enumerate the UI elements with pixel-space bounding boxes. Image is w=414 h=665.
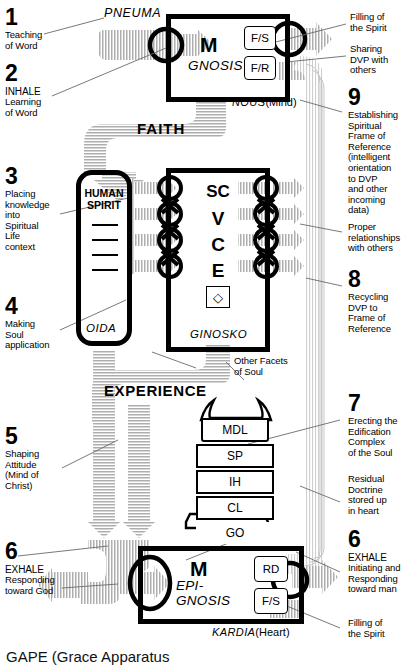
tag-rd-kardia[interactable]: RD [254, 556, 288, 582]
kardia-name-line2: GNOSIS [176, 593, 230, 608]
diagram-caption: GAPE (Grace Apparatus [6, 648, 169, 665]
tower-level-ih: IH [196, 470, 274, 494]
tower-level-go: GO [196, 522, 274, 544]
kardia-foot-label: KARDIA(Heart) [212, 626, 290, 638]
tag-fs-kardia[interactable]: F/S [254, 588, 288, 614]
tower-level-sp: SP [196, 444, 274, 468]
tower-cap [201, 400, 271, 420]
kardia-italic: KARDIA [212, 626, 255, 638]
tower-level-mdl: MDL [201, 418, 269, 442]
kardia-name-label: EPI- GNOSIS [176, 578, 230, 608]
kardia-m-label: M [190, 558, 208, 579]
kardia-plain: (Heart) [255, 626, 289, 638]
tower-level-cl: CL [196, 496, 274, 520]
kardia-name-line1: EPI- [176, 578, 203, 593]
